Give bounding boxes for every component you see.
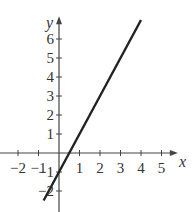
x-tick-label: 5 (158, 160, 166, 176)
y-axis-label: y (44, 14, 54, 32)
y-tick-label: 4 (47, 69, 55, 85)
y-tick-label: 6 (47, 31, 55, 47)
x-tick-label: 3 (117, 160, 125, 176)
x-axis-label: x (178, 153, 186, 170)
x-tick-label: −2 (10, 160, 26, 176)
y-tick-label: 5 (47, 50, 55, 66)
x-tick-label: 1 (76, 160, 84, 176)
y-tick-label: −1 (38, 164, 54, 180)
y-tick-label: 1 (47, 126, 55, 142)
y-tick-label: 2 (47, 107, 55, 123)
x-tick-label: 2 (96, 160, 104, 176)
line-graph: −2−112345−2−1123456xy (0, 0, 192, 212)
y-axis-arrow-icon (56, 16, 62, 24)
x-tick-label: 4 (137, 160, 145, 176)
data-line (44, 20, 141, 201)
y-tick-label: 3 (47, 88, 55, 104)
x-axis-arrow-icon (170, 150, 178, 156)
